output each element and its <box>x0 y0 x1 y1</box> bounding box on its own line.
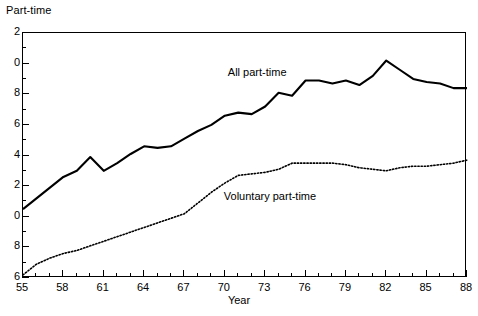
y-axis-tick-minor <box>22 47 26 48</box>
x-axis-tick-minor <box>210 273 211 277</box>
x-axis-tick-label: 82 <box>371 281 399 293</box>
x-axis-tick-minor <box>89 273 90 277</box>
x-axis-tick-minor <box>291 273 292 277</box>
x-axis-tick-minor <box>170 273 171 277</box>
y-axis-tick-minor <box>22 109 26 110</box>
x-axis-tick-minor <box>399 273 400 277</box>
x-axis-title: Year <box>0 294 478 306</box>
x-axis-tick-minor <box>278 273 279 277</box>
x-axis-tick-major <box>183 270 184 277</box>
y-axis-tick-label: 8 <box>0 240 20 251</box>
y-axis-tick-label: 8 <box>0 87 20 98</box>
y-axis-tick-minor <box>22 200 26 201</box>
y-axis-tick-major <box>22 63 29 64</box>
y-axis-tick-major <box>22 32 29 33</box>
x-axis-tick-minor <box>35 273 36 277</box>
x-axis-tick-label: 70 <box>210 281 238 293</box>
x-axis-tick-major <box>466 270 467 277</box>
y-axis-tick-major <box>22 185 29 186</box>
y-axis-tick-label: 0 <box>0 57 20 68</box>
y-axis-title: Part-time <box>6 4 52 16</box>
y-axis-tick-major <box>22 93 29 94</box>
x-axis-tick-minor <box>116 273 117 277</box>
series-line-0 <box>23 61 467 210</box>
x-axis-tick-major <box>264 270 265 277</box>
y-axis-tick-label: 0 <box>0 210 20 221</box>
x-axis-tick-label: 61 <box>89 281 117 293</box>
x-axis-tick-label: 73 <box>250 281 278 293</box>
x-axis-tick-label: 67 <box>169 281 197 293</box>
x-axis-tick-major <box>305 270 306 277</box>
x-axis-tick-minor <box>130 273 131 277</box>
series-line-1 <box>23 160 467 275</box>
y-axis-tick-label: 4 <box>0 149 20 160</box>
y-axis-tick-major <box>22 155 29 156</box>
y-axis-tick-label: 2 <box>0 179 20 190</box>
y-axis-tick-minor <box>22 139 26 140</box>
x-axis-tick-minor <box>197 273 198 277</box>
x-axis-tick-minor <box>318 273 319 277</box>
x-axis-tick-minor <box>453 273 454 277</box>
x-axis-tick-major <box>426 270 427 277</box>
series-label-1: Voluntary part-time <box>224 190 316 202</box>
y-axis-tick-major <box>22 277 29 278</box>
x-axis-tick-minor <box>358 273 359 277</box>
y-axis-tick-minor <box>22 78 26 79</box>
x-axis-tick-minor <box>237 273 238 277</box>
x-axis-tick-minor <box>331 273 332 277</box>
series-label-0: All part-time <box>228 66 287 78</box>
x-axis-tick-minor <box>412 273 413 277</box>
x-axis-tick-minor <box>157 273 158 277</box>
x-axis-tick-minor <box>372 273 373 277</box>
x-axis-tick-label: 85 <box>412 281 440 293</box>
x-axis-tick-minor <box>251 273 252 277</box>
y-axis-tick-major <box>22 246 29 247</box>
x-axis-tick-label: 64 <box>129 281 157 293</box>
x-axis-tick-label: 58 <box>48 281 76 293</box>
x-axis-tick-minor <box>49 273 50 277</box>
x-axis-tick-major <box>103 270 104 277</box>
y-axis-tick-minor <box>22 170 26 171</box>
x-axis-tick-minor <box>76 273 77 277</box>
x-axis-tick-label: 88 <box>452 281 478 293</box>
y-axis-tick-major <box>22 124 29 125</box>
y-axis-tick-major <box>22 216 29 217</box>
x-axis-tick-major <box>62 270 63 277</box>
chart-root: Part-time 680246802 55586164677073767982… <box>0 0 478 316</box>
x-axis-tick-major <box>224 270 225 277</box>
x-axis-tick-label: 55 <box>8 281 36 293</box>
x-axis-tick-minor <box>439 273 440 277</box>
x-axis-tick-major <box>22 270 23 277</box>
x-axis-tick-major <box>385 270 386 277</box>
y-axis-tick-minor <box>22 231 26 232</box>
x-axis-tick-major <box>345 270 346 277</box>
y-axis-tick-label: 6 <box>0 118 20 129</box>
y-axis-tick-minor <box>22 262 26 263</box>
x-axis-tick-major <box>143 270 144 277</box>
x-axis-tick-label: 79 <box>331 281 359 293</box>
y-axis-tick-label: 2 <box>0 26 20 37</box>
x-axis-tick-label: 76 <box>291 281 319 293</box>
